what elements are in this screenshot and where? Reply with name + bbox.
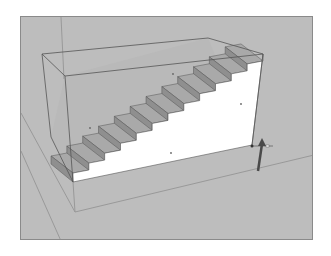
vertex-marker bbox=[170, 152, 172, 154]
ground-line bbox=[61, 17, 64, 79]
bounding-box-edge bbox=[42, 54, 65, 76]
vertex-marker bbox=[172, 73, 174, 75]
3d-viewport[interactable] bbox=[20, 16, 313, 240]
staircase-model[interactable] bbox=[21, 17, 313, 240]
bounding-box-edge bbox=[42, 54, 51, 137]
ground-line bbox=[73, 182, 75, 212]
vertex-marker bbox=[240, 103, 242, 105]
vertex-marker bbox=[89, 127, 91, 129]
